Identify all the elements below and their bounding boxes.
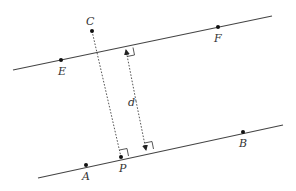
parallel-lines-diagram: C E F A P B d — [0, 0, 296, 191]
label-d: d — [128, 96, 135, 109]
distance-d-segment — [126, 50, 136, 101]
point-b — [241, 130, 245, 134]
label-p: P — [118, 162, 127, 175]
line-ef — [13, 16, 272, 70]
point-c — [90, 29, 94, 33]
label-c: C — [86, 15, 95, 28]
label-a: A — [81, 170, 90, 183]
line-ab — [38, 125, 283, 178]
perpendicular-cp — [92, 31, 121, 157]
point-f — [216, 25, 220, 29]
label-f: F — [213, 32, 222, 45]
point-p — [119, 155, 123, 159]
point-e — [59, 58, 63, 62]
label-e: E — [57, 65, 66, 78]
point-a — [84, 163, 88, 167]
right-angle-marker-top — [127, 48, 135, 57]
right-angle-marker-d-bottom — [145, 142, 154, 150]
label-b: B — [238, 137, 247, 150]
right-angle-marker-p — [120, 149, 129, 157]
